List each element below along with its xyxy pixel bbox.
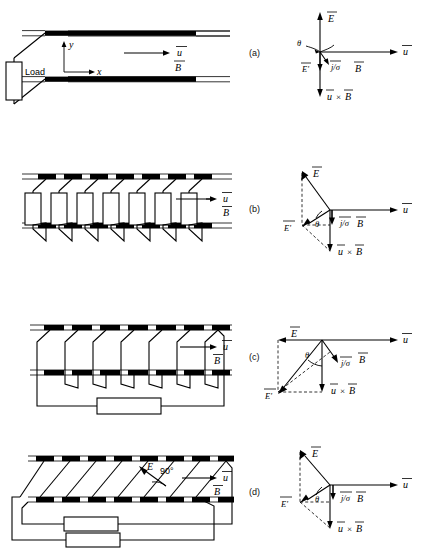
field-label-B-c: B <box>213 355 223 367</box>
vector-diagram-b: E E' u B u × <box>283 167 412 257</box>
B-label-a: B <box>355 63 361 74</box>
theta-label-a: θ <box>297 38 301 48</box>
electrodes-top-segmented-c <box>44 325 230 330</box>
vector-diagram-d: E E' u B u × <box>280 447 412 534</box>
uxB-u-label-a: u <box>327 91 332 102</box>
segment-load-1 <box>25 179 46 241</box>
B-label-c: B <box>214 355 220 366</box>
u-label: u <box>177 47 182 58</box>
uxB-times-b: × <box>347 247 352 257</box>
load-label: Load <box>25 67 45 77</box>
E-label-b: E <box>312 168 319 179</box>
segment-load-circuits <box>25 179 202 241</box>
uxB-u-label-c: u <box>331 385 336 396</box>
E-prime-label-b: E' <box>283 223 291 233</box>
j-sigma-label-a: j/σ <box>330 62 341 72</box>
segment-load-3 <box>77 179 98 241</box>
u-label-d-vec: u <box>403 479 408 490</box>
electrodes-top-segmented-d <box>36 456 234 461</box>
u-label-b-vec: u <box>403 204 408 215</box>
right-angle-label-d: 90° <box>160 466 174 476</box>
load-resistor-c <box>97 398 161 414</box>
field-label-B: B <box>174 61 185 73</box>
u-label-b: u <box>223 193 228 204</box>
load-resistor <box>6 62 22 100</box>
vector-diagram-a: E u × B u B E <box>297 12 412 102</box>
u-label-c: u <box>223 341 228 352</box>
segment-load-7 <box>181 179 202 241</box>
uxB-B-label-c: B <box>349 385 355 396</box>
electrodes-bottom-segmented-c <box>44 370 230 375</box>
u-label-a: u <box>403 46 408 57</box>
field-label-B-b: B <box>222 207 232 219</box>
E-prime-label-d: E' <box>280 499 288 509</box>
series-links-c <box>37 330 218 388</box>
panel-c-hall-generator: u B E u <box>0 310 429 435</box>
figure-canvas: Load y x u B <box>0 0 429 551</box>
flow-arrow-u: u <box>124 47 187 59</box>
segment-load-5 <box>129 179 150 241</box>
B-label-c-vec: B <box>359 354 365 365</box>
segment-load-6 <box>155 179 176 241</box>
electrodes-top-segmented <box>38 174 212 179</box>
E-prime-label-a: E' <box>301 64 309 74</box>
panel-b-segmented-electrode: u B E E' <box>0 155 429 285</box>
E-label-c: E <box>290 328 297 339</box>
B-label: B <box>175 62 181 73</box>
load-resistor-d-2 <box>66 533 120 547</box>
output-load-circuits-d <box>12 461 232 547</box>
B-label-d-vec: B <box>357 493 363 504</box>
uxB-u-label-b: u <box>338 246 343 257</box>
lead-top <box>14 33 45 58</box>
load-resistor-d-1 <box>64 517 118 531</box>
u-label-c-vec: u <box>403 334 408 345</box>
E-label-d: E <box>311 448 318 459</box>
E-label-d-channel: E <box>146 461 153 472</box>
panel-label-c: (c) <box>249 352 260 362</box>
panel-d-diagonal-conducting-wall: E 90° u B <box>0 440 429 551</box>
vector-diagram-c: E u B u × B E <box>264 327 412 401</box>
uxB-u-label-d: u <box>338 523 343 534</box>
uxB-times-c: × <box>340 386 345 396</box>
E-label-a: E <box>327 13 334 24</box>
j-sigma-label-c: j/σ <box>340 358 351 368</box>
B-label-b: B <box>223 207 229 218</box>
B-label-b-vec: B <box>357 218 363 229</box>
u-label-d: u <box>223 472 228 483</box>
right-angle-annotation-d: E 90° <box>139 460 174 486</box>
panel-label-b: (b) <box>249 204 260 214</box>
uxB-B-label-d: B <box>356 523 362 534</box>
coordinate-axes: y x <box>62 39 102 77</box>
uxB-B-label-b: B <box>356 246 362 257</box>
j-sigma-label-b: j/σ <box>339 218 350 228</box>
x-axis-label: x <box>96 66 102 77</box>
uxB-B-label-a: B <box>345 91 351 102</box>
B-label-d: B <box>214 486 220 497</box>
theta-label-d: θ <box>315 494 319 504</box>
y-axis-label: y <box>68 39 74 50</box>
j-sigma-label-d: j/σ <box>340 493 351 503</box>
panel-label-d: (d) <box>249 487 260 497</box>
uxB-times-d: × <box>347 524 352 534</box>
uxB-times-a: × <box>336 92 341 102</box>
panel-label-a: (a) <box>249 48 260 58</box>
theta-label-b: θ <box>315 219 319 229</box>
electrode-bottom <box>45 77 196 82</box>
panel-a-continuous-electrode: Load y x u B <box>0 0 429 140</box>
field-label-B-d: B <box>213 486 223 498</box>
segment-load-2 <box>51 179 72 241</box>
flow-arrow-u-c: u <box>180 341 232 353</box>
segment-load-4 <box>103 179 124 241</box>
theta-label-c: θ <box>305 350 309 360</box>
diagonal-links-d <box>20 461 226 497</box>
electrode-top <box>45 31 196 36</box>
E-prime-label-c: E' <box>264 391 272 401</box>
